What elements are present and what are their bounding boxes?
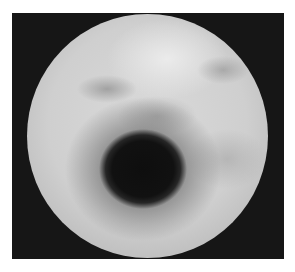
image-frame	[12, 13, 284, 259]
endoscopic-view	[27, 14, 268, 258]
